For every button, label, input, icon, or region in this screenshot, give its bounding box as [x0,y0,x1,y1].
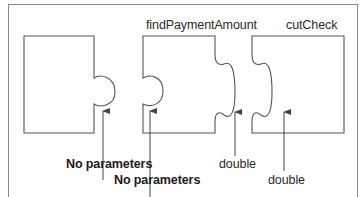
puzzle-piece-findPaymentAmount [143,36,235,133]
label-no-parameters-2: No parameters [114,173,200,187]
label-double-1: double [219,157,256,171]
label-double-2: double [268,173,305,187]
piece-title-findPaymentAmount: findPaymentAmount [146,18,257,32]
puzzle-piece-cutCheck [252,36,344,133]
label-no-parameters-1: No parameters [66,157,152,171]
piece-title-cutCheck: cutCheck [286,18,337,32]
puzzle-piece-main [24,36,115,133]
